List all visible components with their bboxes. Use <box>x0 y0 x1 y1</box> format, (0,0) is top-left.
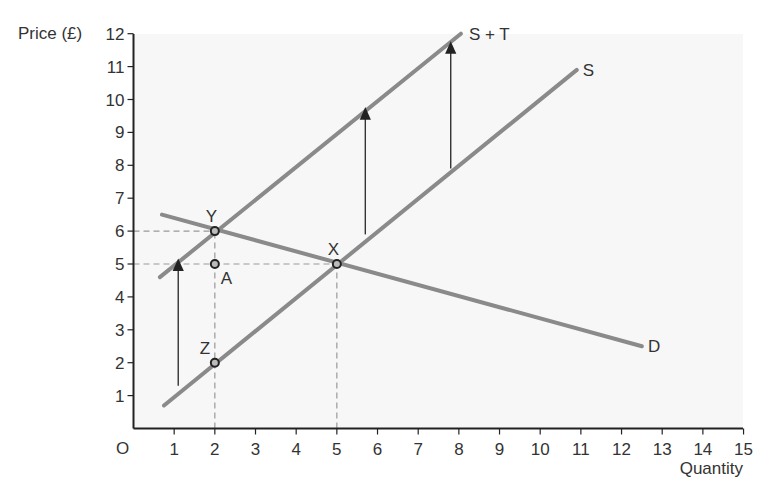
y-tick-label: 11 <box>107 58 125 77</box>
origin-label: O <box>116 439 129 458</box>
point-label: X <box>328 240 339 259</box>
curve-label: S <box>583 61 594 80</box>
supply-demand-tax-chart: DSS + T 12345678910111213141512345678910… <box>0 0 777 497</box>
point-a <box>211 260 219 268</box>
point-z <box>211 359 219 367</box>
curve-label: S + T <box>469 25 510 44</box>
point-label: Y <box>206 207 217 226</box>
x-tick-label: 1 <box>169 440 178 459</box>
y-tick-label: 5 <box>115 255 124 274</box>
point-label: Z <box>200 339 210 358</box>
y-tick-label: 12 <box>106 25 125 44</box>
point-y <box>211 227 219 235</box>
y-tick-label: 10 <box>106 91 125 110</box>
x-tick-label: 5 <box>332 440 341 459</box>
y-tick-label: 4 <box>115 288 124 307</box>
y-tick-label: 2 <box>115 354 124 373</box>
x-tick-label: 11 <box>572 440 590 459</box>
point-label: A <box>221 269 233 288</box>
y-tick-label: 7 <box>115 189 124 208</box>
x-tick-label: 12 <box>612 440 631 459</box>
x-tick-label: 4 <box>291 440 300 459</box>
x-tick-label: 7 <box>413 440 422 459</box>
x-tick-label: 14 <box>693 440 712 459</box>
y-tick-label: 9 <box>115 123 124 142</box>
curve-label: D <box>648 337 660 356</box>
x-tick-label: 13 <box>653 440 672 459</box>
x-axis-label: Quantity <box>680 459 744 478</box>
x-tick-label: 15 <box>734 440 753 459</box>
x-tick-label: 10 <box>531 440 550 459</box>
y-axis-label: Price (£) <box>18 24 82 43</box>
y-tick-label: 6 <box>115 222 124 241</box>
y-tick-label: 8 <box>115 156 124 175</box>
x-tick-label: 3 <box>251 440 260 459</box>
x-tick-label: 6 <box>373 440 382 459</box>
point-x <box>333 260 341 268</box>
x-tick-label: 2 <box>210 440 219 459</box>
y-tick-label: 3 <box>115 321 124 340</box>
x-tick-label: 8 <box>454 440 463 459</box>
x-tick-label: 9 <box>495 440 504 459</box>
y-tick-label: 1 <box>115 387 124 406</box>
